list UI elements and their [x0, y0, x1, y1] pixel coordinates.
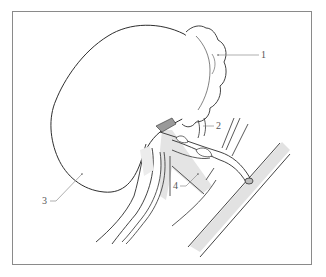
vessel-branch-2b [204, 118, 206, 136]
vein-branch-up-3 [232, 124, 248, 156]
vein-branch-up-1 [222, 118, 234, 148]
kidney-diagram [0, 0, 326, 277]
label-3: 3 [42, 196, 47, 206]
label-2: 2 [216, 121, 221, 131]
renal-vein-right-edge [206, 168, 214, 180]
vessel-branch-2 [198, 120, 200, 138]
artery-origin [245, 178, 253, 184]
leader-dot-3 [81, 173, 83, 175]
leader-dot-1 [217, 54, 219, 56]
renal-vein-loop-2 [196, 148, 212, 157]
leader-dot-4 [197, 173, 199, 175]
label-4: 4 [173, 181, 178, 191]
adrenal-outline [182, 26, 226, 127]
vein-branch-up-2 [226, 118, 240, 150]
label-1: 1 [261, 50, 266, 60]
ureter-shading [140, 146, 154, 176]
